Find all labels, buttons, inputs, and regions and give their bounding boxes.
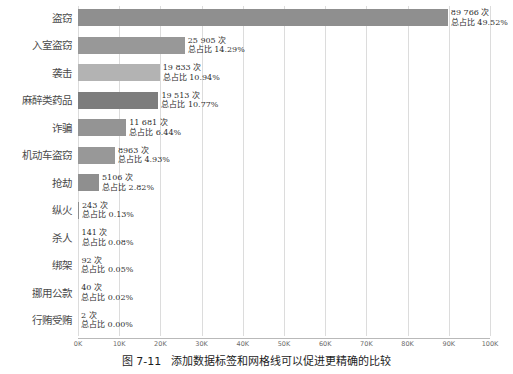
x-tick-70K: 70K bbox=[360, 340, 373, 348]
category-label-2: 袭击 bbox=[0, 67, 72, 79]
category-label-9: 绑架 bbox=[0, 259, 72, 271]
bar-row: 行贿受贿2 次总占比 0.00% bbox=[0, 312, 513, 340]
bar-row: 盗窃89 766 次总占比 49.52% bbox=[0, 9, 513, 37]
bar-5[interactable] bbox=[78, 147, 115, 164]
bar-chart: 盗窃89 766 次总占比 49.52%入室盗窃25 905 次总占比 14.2… bbox=[0, 2, 513, 336]
x-tick-40K: 40K bbox=[237, 340, 250, 348]
data-label-percent: 总占比 0.08% bbox=[82, 238, 134, 248]
bar-row: 机动车盗窃8963 次总占比 4.93% bbox=[0, 147, 513, 175]
category-label-10: 挪用公款 bbox=[0, 287, 72, 299]
bar-7[interactable] bbox=[78, 202, 79, 219]
data-label-count: 25 905 次 bbox=[188, 36, 245, 46]
x-tick-80K: 80K bbox=[401, 340, 414, 348]
x-tick-50K: 50K bbox=[278, 340, 291, 348]
data-label-2: 19 833 次总占比 10.94% bbox=[163, 63, 220, 82]
category-label-4: 诈骗 bbox=[0, 122, 72, 134]
data-label-count: 40 次 bbox=[81, 283, 133, 293]
category-label-0: 盗窃 bbox=[0, 12, 72, 24]
data-label-percent: 总占比 10.77% bbox=[161, 100, 218, 110]
bar-3[interactable] bbox=[78, 92, 158, 109]
data-label-count: 243 次 bbox=[82, 201, 134, 211]
category-label-3: 麻醉类药品 bbox=[0, 94, 72, 106]
data-label-percent: 总占比 0.00% bbox=[81, 320, 133, 330]
data-label-8: 141 次总占比 0.08% bbox=[82, 228, 134, 247]
data-label-10: 40 次总占比 0.02% bbox=[81, 283, 133, 302]
data-label-percent: 总占比 6.44% bbox=[129, 128, 181, 138]
data-label-percent: 总占比 2.82% bbox=[102, 183, 154, 193]
bar-1[interactable] bbox=[78, 37, 185, 54]
category-label-6: 抢劫 bbox=[0, 177, 72, 189]
caption-text: 添加数据标签和网格线可以促进更精确的比较 bbox=[171, 355, 391, 368]
bar-row: 麻醉类药品19 513 次总占比 10.77% bbox=[0, 92, 513, 120]
data-label-7: 243 次总占比 0.13% bbox=[82, 201, 134, 220]
caption-number: 图 7-11 bbox=[122, 355, 161, 368]
data-label-9: 92 次总占比 0.05% bbox=[81, 256, 133, 275]
data-label-1: 25 905 次总占比 14.29% bbox=[188, 36, 245, 55]
figure-container: 盗窃89 766 次总占比 49.52%入室盗窃25 905 次总占比 14.2… bbox=[0, 0, 513, 374]
data-label-count: 92 次 bbox=[81, 256, 133, 266]
x-axis-ticks: 0K10K20K30K40K50K60K70K80K90K100K bbox=[0, 340, 513, 352]
data-label-percent: 总占比 0.13% bbox=[82, 210, 134, 220]
data-label-0: 89 766 次总占比 49.52% bbox=[451, 8, 508, 27]
bar-row: 袭击19 833 次总占比 10.94% bbox=[0, 64, 513, 92]
data-label-count: 89 766 次 bbox=[451, 8, 508, 18]
data-label-count: 19 513 次 bbox=[161, 91, 218, 101]
data-label-percent: 总占比 49.52% bbox=[451, 18, 508, 28]
data-label-percent: 总占比 0.05% bbox=[81, 265, 133, 275]
x-tick-10K: 10K bbox=[113, 340, 126, 348]
bar-2[interactable] bbox=[78, 64, 160, 81]
data-label-count: 19 833 次 bbox=[163, 63, 220, 73]
bar-row: 抢劫5106 次总占比 2.82% bbox=[0, 174, 513, 202]
bar-row: 挪用公款40 次总占比 0.02% bbox=[0, 284, 513, 312]
data-label-4: 11 681 次总占比 6.44% bbox=[129, 118, 181, 137]
bar-6[interactable] bbox=[78, 174, 99, 191]
data-label-count: 8963 次 bbox=[118, 146, 170, 156]
bar-row: 纵火243 次总占比 0.13% bbox=[0, 202, 513, 230]
category-label-5: 机动车盗窃 bbox=[0, 149, 72, 161]
data-label-3: 19 513 次总占比 10.77% bbox=[161, 91, 218, 110]
data-label-count: 2 次 bbox=[81, 311, 133, 321]
data-label-6: 5106 次总占比 2.82% bbox=[102, 173, 154, 192]
figure-caption: 图 7-11添加数据标签和网格线可以促进更精确的比较 bbox=[0, 352, 513, 368]
bar-rows: 盗窃89 766 次总占比 49.52%入室盗窃25 905 次总占比 14.2… bbox=[0, 6, 513, 336]
bar-4[interactable] bbox=[78, 119, 126, 136]
bar-row: 诈骗11 681 次总占比 6.44% bbox=[0, 119, 513, 147]
data-label-percent: 总占比 14.29% bbox=[188, 45, 245, 55]
data-label-percent: 总占比 10.94% bbox=[163, 73, 220, 83]
data-label-percent: 总占比 4.93% bbox=[118, 155, 170, 165]
data-label-count: 5106 次 bbox=[102, 173, 154, 183]
x-tick-20K: 20K bbox=[154, 340, 167, 348]
data-label-5: 8963 次总占比 4.93% bbox=[118, 146, 170, 165]
x-tick-100K: 100K bbox=[482, 340, 499, 348]
x-tick-60K: 60K bbox=[319, 340, 332, 348]
bar-0[interactable] bbox=[78, 9, 448, 26]
x-tick-30K: 30K bbox=[195, 340, 208, 348]
bar-row: 入室盗窃25 905 次总占比 14.29% bbox=[0, 37, 513, 65]
bar-row: 绑架92 次总占比 0.05% bbox=[0, 257, 513, 285]
category-label-7: 纵火 bbox=[0, 204, 72, 216]
category-label-11: 行贿受贿 bbox=[0, 314, 72, 326]
data-label-count: 141 次 bbox=[82, 228, 134, 238]
category-label-8: 杀人 bbox=[0, 232, 72, 244]
data-label-percent: 总占比 0.02% bbox=[81, 293, 133, 303]
x-axis-line bbox=[78, 338, 490, 339]
bar-row: 杀人141 次总占比 0.08% bbox=[0, 229, 513, 257]
x-tick-0K: 0K bbox=[74, 340, 82, 348]
category-label-1: 入室盗窃 bbox=[0, 39, 72, 51]
data-label-11: 2 次总占比 0.00% bbox=[81, 311, 133, 330]
x-tick-90K: 90K bbox=[443, 340, 456, 348]
data-label-count: 11 681 次 bbox=[129, 118, 181, 128]
